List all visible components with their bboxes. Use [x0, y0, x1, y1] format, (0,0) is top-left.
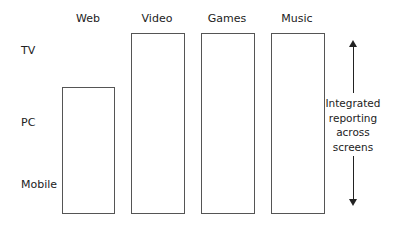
- row-label-tv: TV: [21, 44, 35, 57]
- row-label-pc: PC: [21, 116, 35, 129]
- bar-video: [131, 33, 185, 214]
- side-note: Integrated reporting across screens: [322, 96, 384, 154]
- side-note-line: Integrated: [322, 96, 384, 111]
- bar-web: [62, 87, 115, 214]
- bar-games: [201, 33, 255, 214]
- side-note-line: screens: [322, 140, 384, 155]
- arrow-down-icon: [349, 199, 357, 206]
- column-label-video: Video: [127, 12, 187, 25]
- row-label-mobile: Mobile: [21, 178, 57, 191]
- arrow-line-bottom: [353, 156, 354, 200]
- column-label-web: Web: [58, 12, 118, 25]
- column-label-games: Games: [197, 12, 257, 25]
- bar-music: [271, 33, 325, 214]
- side-note-line: reporting: [322, 111, 384, 126]
- side-note-line: across: [322, 125, 384, 140]
- column-label-music: Music: [267, 12, 327, 25]
- arrow-line-top: [353, 46, 354, 93]
